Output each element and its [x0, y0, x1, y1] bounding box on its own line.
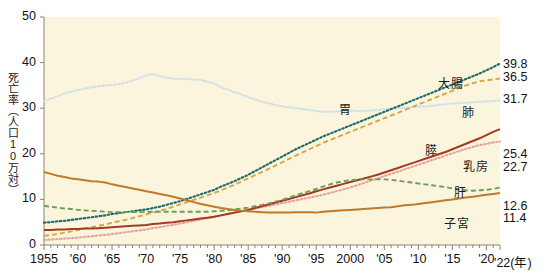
lung-label: 肺 [462, 103, 475, 120]
end-value-lung: 36.5 [503, 70, 527, 84]
y-axis-title: 死亡率（人口10万対） [2, 72, 18, 195]
y-tick-label: 10 [10, 191, 36, 205]
chart-root: 死亡率（人口10万対） 01020304050 1955'60'65'70'75… [0, 0, 552, 278]
end-value-pancreas: 22.7 [503, 160, 527, 174]
liver-label: 肝 [454, 183, 467, 200]
y-tick-label: 0 [10, 237, 36, 251]
breast-label: 乳房 [463, 157, 488, 174]
y-tick-label: 30 [10, 100, 36, 114]
pancreas-label: 膵 [425, 141, 438, 158]
end-value-stomach: 31.7 [503, 92, 527, 106]
end-value-uterus: 11.4 [503, 211, 526, 225]
end-value-breast: 25.4 [503, 147, 527, 161]
series-line-uterus [44, 172, 500, 213]
x-tick-label: '22(年) [494, 252, 532, 271]
chart-svg [0, 0, 552, 278]
uterus-label: 子宮 [444, 214, 469, 231]
y-tick-label: 40 [10, 55, 36, 69]
end-value-colorectal: 39.8 [503, 57, 527, 71]
y-tick-label: 20 [10, 146, 36, 160]
stomach-label: 胃 [339, 100, 352, 117]
colorectal-label: 大腸 [438, 74, 463, 91]
y-tick-label: 50 [10, 9, 36, 23]
